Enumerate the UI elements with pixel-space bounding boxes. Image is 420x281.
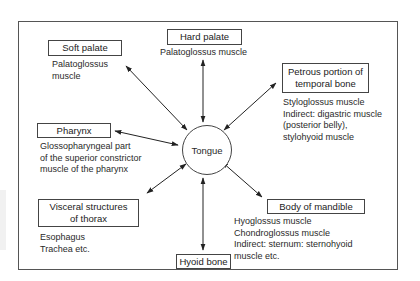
desc-line: Esophagus	[40, 232, 90, 244]
desc-line: Indirect: sternum: sternohyoid	[234, 239, 353, 251]
desc-line: Indirect: digastric muscle	[283, 109, 382, 121]
pharynx-title: Pharynx	[57, 125, 92, 137]
desc-line: muscle	[52, 71, 108, 83]
arrow-petrous	[224, 83, 276, 130]
arrow-mandible	[222, 162, 262, 197]
desc-line: Trachea etc.	[40, 244, 90, 256]
petrous-desc: Styloglossus muscle Indirect: digastric …	[283, 97, 382, 143]
arrow-visceral	[147, 164, 186, 193]
petrous-box: Petrous portion of temporal bone	[282, 63, 369, 93]
desc-line: muscle etc.	[234, 251, 353, 263]
hyoid-box: Hyoid bone	[176, 254, 231, 269]
soft-palate-desc: Palatoglossus muscle	[52, 59, 108, 82]
visceral-desc: Esophagus Trachea etc.	[40, 232, 90, 255]
soft-palate-box: Soft palate	[48, 40, 122, 56]
desc-line: of the superior constrictor	[40, 153, 142, 165]
mandible-box: Body of mandible	[267, 199, 365, 214]
mandible-desc: Hyoglossus muscle Chondroglossus muscle …	[234, 216, 353, 262]
desc-line: Chondroglossus muscle	[234, 228, 353, 240]
desc-line: Glossopharyngeal part	[40, 141, 142, 153]
visceral-box: Visceral structures of thorax	[38, 199, 139, 227]
hard-palate-title: Hard palate	[180, 31, 229, 43]
desc-line: Styloglossus muscle	[283, 97, 382, 109]
tongue-node: Tongue	[182, 125, 232, 175]
hyoid-title: Hyoid bone	[179, 256, 227, 268]
desc-line: Palatoglossus muscle	[160, 47, 247, 59]
desc-line: stylohyoid muscle	[283, 132, 382, 144]
soft-palate-title: Soft palate	[62, 42, 107, 54]
visceral-title-line: of thorax	[70, 213, 107, 225]
petrous-title-line: Petrous portion of	[288, 66, 363, 78]
mandible-title: Body of mandible	[279, 201, 352, 213]
petrous-title-line: temporal bone	[295, 78, 356, 90]
hard-palate-box: Hard palate	[167, 29, 242, 45]
desc-line: Palatoglossus	[52, 59, 108, 71]
desc-line: muscle of the pharynx	[40, 164, 142, 176]
tongue-label: Tongue	[191, 145, 222, 156]
visceral-title-line: Visceral structures	[50, 201, 128, 213]
desc-line: (posterior belly),	[283, 120, 382, 132]
pharynx-desc: Glossopharyngeal part of the superior co…	[40, 141, 142, 176]
pharynx-box: Pharynx	[37, 123, 111, 138]
desc-line: Hyoglossus muscle	[234, 216, 353, 228]
arrow-soft-palate	[126, 66, 187, 130]
hard-palate-desc: Palatoglossus muscle	[160, 47, 247, 59]
